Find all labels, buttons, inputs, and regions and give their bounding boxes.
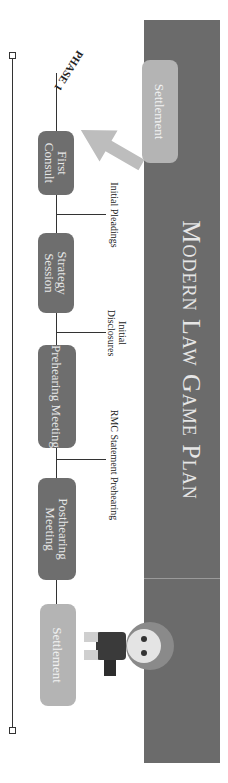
milestone-tick <box>57 459 106 460</box>
game-plan-slide: Modern Law Game Plan Settlement PHASE 1 … <box>0 0 228 783</box>
banner-divider <box>144 578 220 579</box>
timeline-line <box>12 55 13 730</box>
step-first-consult: First Consult <box>38 131 74 195</box>
milestone-tick <box>57 214 106 215</box>
phase-label: PHASE 1 <box>52 49 86 93</box>
step-prehearing-meeting: Prehearing Meeting <box>38 345 76 448</box>
timeline-start-marker <box>9 52 16 59</box>
step-settlement: Settlement <box>40 604 76 706</box>
milestone-tick <box>57 332 106 333</box>
timeline-end-marker <box>9 727 16 734</box>
lawyer-character-icon <box>78 608 178 688</box>
step-strategy-session: Strategy Session <box>38 233 74 313</box>
milestone-rmc-statement: RMC Statement Prehearing <box>109 405 120 525</box>
page-title: Modern Law Game Plan <box>176 150 206 570</box>
step-posthearing-meeting: Posthearing Meeting <box>38 478 76 580</box>
milestone-initial-disclosures: Initial Disclosures <box>106 302 128 364</box>
milestone-initial-pleadings: Initial Pleadings <box>109 180 120 250</box>
arrow-icon <box>68 120 148 180</box>
